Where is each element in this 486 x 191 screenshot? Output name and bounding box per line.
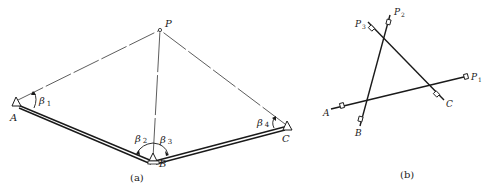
angle-arrow-b4 — [272, 116, 276, 121]
marker-p1 — [463, 74, 468, 80]
label-b-b: B — [354, 128, 362, 138]
label-p3: P3 — [354, 19, 366, 30]
figure-a: A B C P β1 β2 β3 β4 (a) — [9, 18, 292, 183]
line-p3-c — [368, 22, 444, 100]
caption-b: (b) — [400, 169, 414, 180]
angle-label-b1: β1 — [38, 95, 51, 108]
diagram-canvas: A B C P β1 β2 β3 β4 (a) A B C P1 P2 P3 (… — [0, 0, 486, 191]
label-b: B — [158, 158, 166, 169]
label-b-a: A — [322, 108, 330, 118]
angle-label-b3: β3 — [159, 134, 172, 146]
point-p-marker — [158, 28, 161, 31]
figure-b: A B C P1 P2 P3 (b) — [322, 7, 482, 180]
sight-line-a-p — [18, 30, 160, 100]
marker-c — [433, 91, 439, 97]
angle-label-b4: β4 — [256, 117, 270, 129]
sight-line-b-p — [153, 30, 160, 158]
line-b-p2 — [360, 15, 390, 126]
angle-label-b2: β2 — [134, 133, 147, 145]
label-a: A — [9, 112, 17, 123]
label-p2: P2 — [393, 7, 405, 18]
marker-b — [358, 116, 363, 122]
station-a-marker — [12, 97, 21, 106]
marker-a — [339, 103, 344, 109]
marker-p3 — [368, 25, 374, 31]
sight-line-c-p — [160, 30, 285, 124]
label-b-c: C — [446, 99, 453, 109]
marker-p2 — [386, 19, 391, 25]
station-b-base — [148, 161, 159, 164]
label-p: P — [164, 18, 172, 29]
station-c-marker — [283, 121, 292, 130]
label-c: C — [282, 133, 290, 144]
station-b-marker — [149, 153, 157, 161]
label-p1: P1 — [470, 72, 482, 83]
caption-a: (a) — [130, 172, 144, 183]
